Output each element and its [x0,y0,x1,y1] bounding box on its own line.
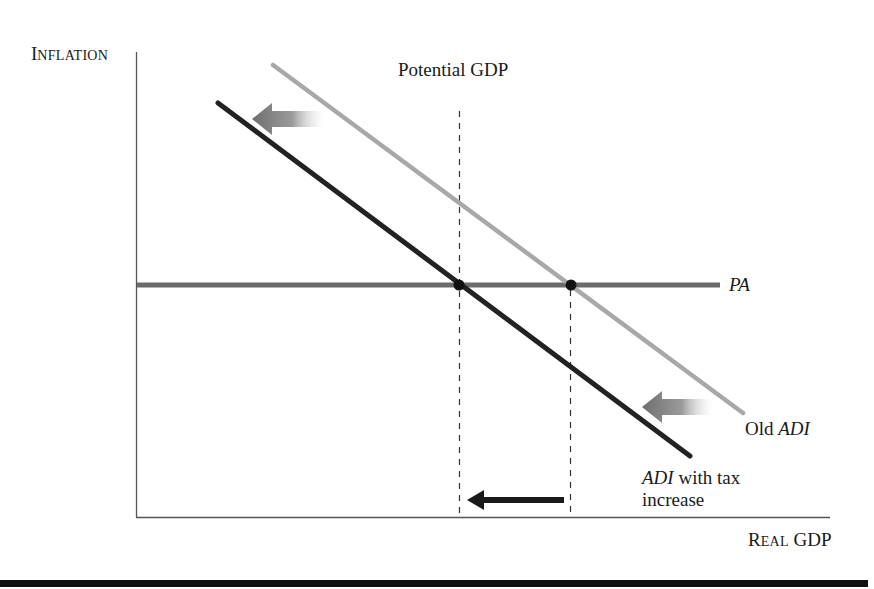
x-axis-label: REAL GDP [748,529,832,551]
potential-gdp-label: Potential GDP [398,59,508,81]
shift-arrow-lower-icon [642,391,714,423]
x-axis-label-rest: EAL [761,534,789,549]
old-adi-italic: ADI [778,418,810,439]
new-equilibrium-point [454,280,465,291]
new-adi-label: ADI with tax increase [642,467,740,511]
old-adi-label: Old ADI [745,418,810,440]
new-adi-curve [218,103,690,456]
old-adi-curve [273,65,743,413]
pa-text: PA [729,274,750,295]
new-adi-line1: with tax [674,467,741,488]
x-axis-label-gdp: GDP [789,529,832,550]
y-axis-label: INFLATION [31,43,108,65]
output-decrease-arrow-icon [467,490,564,510]
shift-arrow-upper-icon [252,103,325,135]
y-axis-label-rest: NFLATION [37,48,108,63]
potential-gdp-text: Potential GDP [398,59,508,80]
bottom-rule [0,580,868,587]
new-adi-italic: ADI [642,467,674,488]
pa-label: PA [729,274,750,296]
old-adi-prefix: Old [745,418,778,439]
old-equilibrium-point [566,280,577,291]
new-adi-line2: increase [642,489,740,511]
x-axis-label-initial: R [748,529,761,550]
